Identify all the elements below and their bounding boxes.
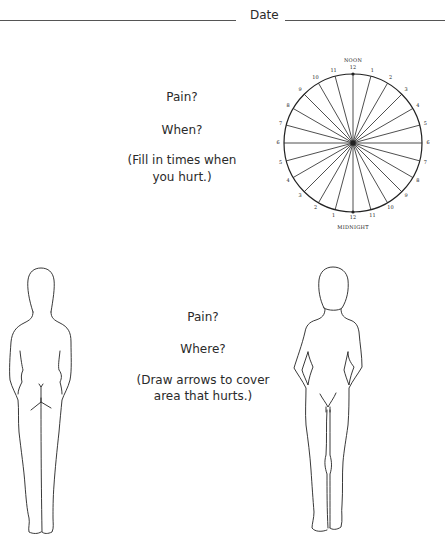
front-right-arm-inner [344,352,354,385]
front-leg-divider [325,410,332,528]
front-crotch-outline [320,393,336,412]
front-body-figure[interactable] [0,0,445,542]
front-left-arm-inner [302,352,313,385]
front-left-outline [294,309,327,531]
front-right-outline [330,309,362,529]
front-head-outline [319,267,349,310]
